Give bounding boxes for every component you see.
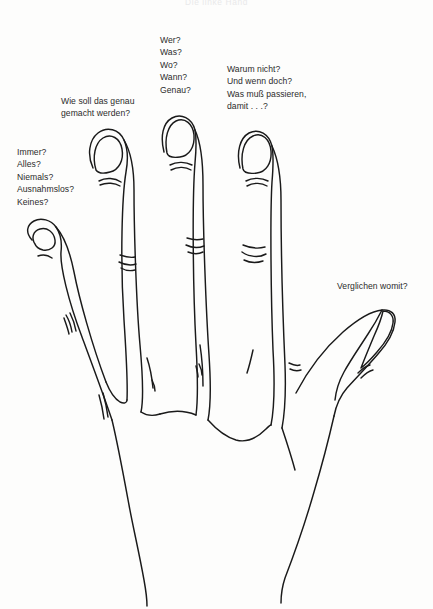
crease-ring-tip-2 <box>100 183 120 186</box>
crease-index-joint <box>242 245 266 262</box>
crease-middle-tip-2 <box>171 167 191 170</box>
finger-ring-outline <box>90 129 143 412</box>
knuckle-marks <box>99 345 301 419</box>
callout-index: Warum nicht? Und wenn doch? Was muß pass… <box>227 63 306 113</box>
finger-thumb-outline <box>296 310 395 416</box>
finger-pinky-outline <box>28 219 112 420</box>
crease-pinky-joint <box>64 313 76 334</box>
page-canvas: Die linke Hand <box>0 0 433 609</box>
page-title: Die linke Hand <box>0 0 433 6</box>
crease-ring-joint <box>119 255 136 271</box>
hand-outline <box>106 382 334 606</box>
fingernail-pinky <box>33 229 55 251</box>
fingernail-middle <box>166 120 194 157</box>
finger-middle-outline <box>162 116 210 420</box>
crease-pinky-tip <box>38 255 52 258</box>
crease-thumb-joint <box>358 365 373 378</box>
callout-middle: Wer? Was? Wo? Wann? Genau? <box>160 34 191 96</box>
crease-ring-tip-1 <box>99 178 121 182</box>
fingernail-index <box>242 135 271 173</box>
finger-index-outline <box>238 131 285 428</box>
crease-middle-tip-1 <box>170 162 192 165</box>
callout-thumb: Verglichen womit? <box>337 280 408 292</box>
crease-middle-joint <box>186 238 204 254</box>
fingernail-thumb <box>361 311 393 368</box>
callout-pinky: Immer? Alles? Niemals? Ausnahmslos? Kein… <box>17 146 74 208</box>
callout-ring: Wie soll das genau gemacht werden? <box>61 95 135 120</box>
crease-index-tip-2 <box>247 183 267 186</box>
hand-diagram <box>0 0 433 609</box>
crease-index-tip-1 <box>246 178 268 181</box>
fingernail-ring <box>94 136 122 173</box>
